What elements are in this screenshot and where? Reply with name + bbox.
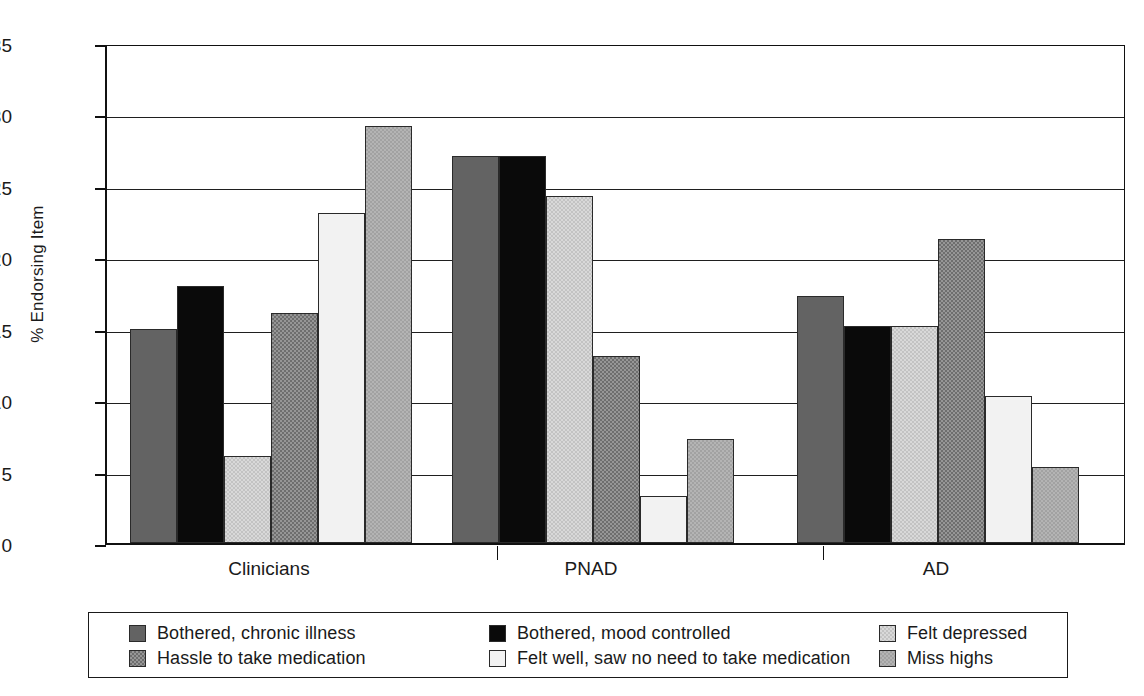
x-axis-label-ad: AD xyxy=(923,558,949,580)
gridline xyxy=(107,189,1124,190)
plot-area xyxy=(105,45,1125,545)
bar-ad-bothered-chronic xyxy=(797,296,844,543)
y-tick-label: 25 xyxy=(0,178,12,197)
y-tick-label: 0 xyxy=(0,536,12,555)
legend-item-felt-depressed[interactable]: Felt depressed xyxy=(879,621,1027,646)
x-axis-label-clinicians: Clinicians xyxy=(228,558,309,580)
legend-label: Felt well, saw no need to take medicatio… xyxy=(517,648,850,669)
y-tick-label: 10 xyxy=(0,393,12,412)
legend-column: Bothered, mood controlledFelt well, saw … xyxy=(489,621,850,671)
category-separator xyxy=(823,546,824,560)
x-axis-label-pnad: PNAD xyxy=(565,558,618,580)
y-tick-label: 15 xyxy=(0,321,12,340)
legend-label: Hassle to take medication xyxy=(157,648,366,669)
bar-clinicians-felt-depressed xyxy=(224,456,271,543)
bar-pnad-felt-well xyxy=(640,496,687,543)
legend-label: Felt depressed xyxy=(907,623,1027,644)
legend-label: Bothered, chronic illness xyxy=(157,623,356,644)
legend-label: Miss highs xyxy=(907,648,993,669)
bar-pnad-bothered-mood xyxy=(499,156,546,543)
legend-item-bothered-mood[interactable]: Bothered, mood controlled xyxy=(489,621,850,646)
bar-clinicians-bothered-mood xyxy=(177,286,224,543)
gridline xyxy=(107,117,1124,118)
chart-legend: Bothered, chronic illnessHassle to take … xyxy=(88,612,1068,678)
y-tick-mark xyxy=(95,545,106,547)
legend-label: Bothered, mood controlled xyxy=(517,623,731,644)
bar-ad-felt-well xyxy=(985,396,1032,543)
y-tick-label: 5 xyxy=(0,464,12,483)
legend-swatch-icon xyxy=(489,625,506,642)
legend-swatch-icon xyxy=(129,650,146,667)
category-separator xyxy=(497,546,498,560)
bar-pnad-miss-highs xyxy=(687,439,734,543)
legend-column: Bothered, chronic illnessHassle to take … xyxy=(129,621,366,671)
bar-pnad-hassle xyxy=(593,356,640,543)
bar-ad-bothered-mood xyxy=(844,326,891,543)
bar-pnad-bothered-chronic xyxy=(452,156,499,543)
legend-item-felt-well[interactable]: Felt well, saw no need to take medicatio… xyxy=(489,646,850,671)
bar-clinicians-miss-highs xyxy=(365,126,412,543)
legend-swatch-icon xyxy=(489,650,506,667)
legend-swatch-icon xyxy=(879,650,896,667)
legend-swatch-icon xyxy=(879,625,896,642)
bar-clinicians-bothered-chronic xyxy=(130,329,177,543)
bar-pnad-felt-depressed xyxy=(546,196,593,543)
y-tick-label: 20 xyxy=(0,250,12,269)
legend-swatch-icon xyxy=(129,625,146,642)
y-axis-title: % Endorsing Item xyxy=(28,174,48,374)
bar-ad-felt-depressed xyxy=(891,326,938,543)
y-tick-label: 30 xyxy=(0,107,12,126)
bar-chart-figure: % Endorsing Item 05101520253035 Clinicia… xyxy=(0,0,1144,696)
y-tick-label: 35 xyxy=(0,36,12,55)
bar-ad-miss-highs xyxy=(1032,467,1079,543)
legend-item-bothered-chronic[interactable]: Bothered, chronic illness xyxy=(129,621,366,646)
legend-column: Felt depressedMiss highs xyxy=(879,621,1027,671)
legend-item-hassle[interactable]: Hassle to take medication xyxy=(129,646,366,671)
bar-clinicians-hassle xyxy=(271,313,318,543)
legend-item-miss-highs[interactable]: Miss highs xyxy=(879,646,1027,671)
bar-clinicians-felt-well xyxy=(318,213,365,543)
bar-ad-hassle xyxy=(938,239,985,543)
